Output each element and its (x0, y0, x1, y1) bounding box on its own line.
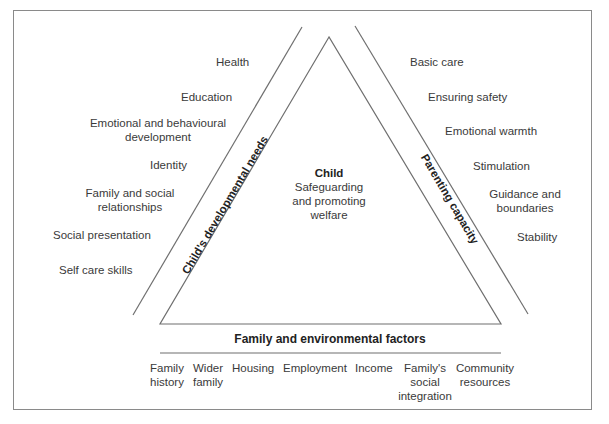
right-item-guidance-2: boundaries (480, 201, 570, 215)
right-item-warmth: Emotional warmth (445, 124, 537, 138)
left-item-selfcare: Self care skills (59, 263, 133, 277)
bottom-item-line: integration (395, 389, 455, 403)
bottom-item-employment: Employment (283, 361, 347, 375)
left-item-education: Education (181, 90, 232, 104)
center-line-1: Safeguarding (279, 180, 379, 194)
bottom-item-line: Wider (193, 361, 223, 375)
center-line-2: and promoting (279, 194, 379, 208)
bottom-item-line: resources (455, 375, 515, 389)
bottom-item-family-history: Family history (145, 361, 189, 389)
bottom-item-income: Income (355, 361, 393, 375)
right-item-guidance-1: Guidance and (480, 187, 570, 201)
bottom-item-community-resources: Community resources (455, 361, 515, 389)
left-item-social: Social presentation (53, 228, 151, 242)
right-item-stability: Stability (517, 230, 557, 244)
left-item-emotional-2: development (78, 130, 238, 144)
bottom-item-line: social (395, 375, 455, 389)
right-item-stimulation: Stimulation (473, 159, 530, 173)
bottom-side-label: Family and environmental factors (180, 332, 480, 346)
bottom-item-line: Employment (283, 361, 347, 375)
bottom-item-line: family (193, 375, 223, 389)
bottom-item-line: Family (145, 361, 189, 375)
bottom-item-line: Income (355, 361, 393, 375)
bottom-item-line: history (145, 375, 189, 389)
bottom-item-social-integration: Family's social integration (395, 361, 455, 403)
bottom-item-line: Community (455, 361, 515, 375)
left-item-health: Health (216, 55, 249, 69)
bottom-item-wider-family: Wider family (193, 361, 223, 389)
bottom-item-line: Family's (395, 361, 455, 375)
left-item-family-1: Family and social (80, 186, 180, 200)
bottom-item-line: Housing (232, 361, 274, 375)
left-item-emotional-1: Emotional and behavioural (78, 116, 238, 130)
left-item-family-2: relationships (80, 200, 180, 214)
left-item-identity: Identity (150, 158, 187, 172)
center-title: Child (289, 166, 369, 180)
center-line-3: welfare (279, 208, 379, 222)
right-item-safety: Ensuring safety (428, 90, 507, 104)
bottom-item-housing: Housing (232, 361, 274, 375)
right-item-basic-care: Basic care (410, 55, 464, 69)
